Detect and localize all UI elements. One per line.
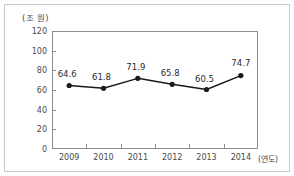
y-tick-label: 100 (32, 46, 47, 55)
data-point-label: 64.6 (58, 69, 77, 79)
x-tick-label: 2011 (128, 153, 148, 162)
x-tick-mark (224, 144, 225, 149)
y-tick-mark (52, 90, 56, 91)
x-tick-mark (86, 144, 87, 149)
x-tick-label: 2009 (59, 153, 79, 162)
x-tick-mark (189, 144, 190, 149)
x-axis-title: (연도) (258, 153, 278, 164)
data-point-label: 60.5 (195, 74, 214, 84)
y-tick-mark (52, 51, 56, 52)
y-tick-label: 80 (37, 66, 47, 75)
y-tick-mark (52, 70, 56, 71)
data-point-label: 71.9 (126, 62, 145, 72)
x-tick-label: 2010 (93, 153, 113, 162)
y-tick-mark (52, 129, 56, 130)
data-point-label: 74.7 (231, 58, 250, 68)
y-tick-label: 20 (37, 125, 47, 134)
y-tick-label: 60 (37, 86, 47, 95)
x-tick-label: 2013 (196, 153, 216, 162)
y-tick-label: 120 (32, 27, 47, 36)
y-tick-mark (52, 110, 56, 111)
data-point-label: 61.8 (92, 72, 111, 82)
y-tick-label: 40 (37, 105, 47, 114)
x-tick-mark (155, 144, 156, 149)
x-tick-label: 2014 (231, 153, 251, 162)
chart-screenshot: (조 원) 020406080100120 200920102011201220… (0, 0, 294, 176)
plot-area-frame (52, 31, 258, 149)
y-axis-unit-label: (조 원) (22, 11, 49, 23)
y-tick-label: 0 (42, 145, 47, 154)
x-tick-mark (121, 144, 122, 149)
x-tick-label: 2012 (162, 153, 182, 162)
data-point-label: 65.8 (161, 68, 180, 78)
